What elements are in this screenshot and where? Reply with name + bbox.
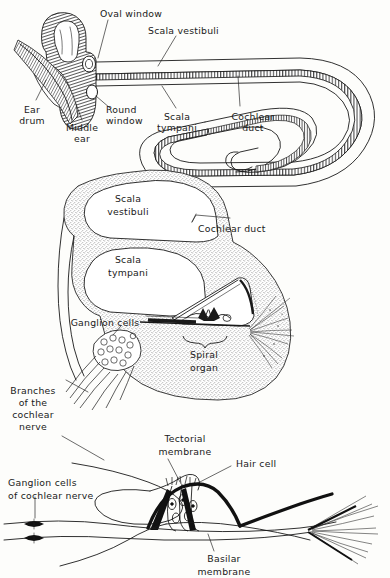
label-scala-tympani-line2: tympani [157, 122, 197, 133]
label-scala-tympani-2-line2: tympani [108, 267, 148, 278]
label-middle-ear-line2: ear [74, 133, 90, 144]
label-tectorial-line2: membrane [159, 446, 212, 457]
label-spiral-organ-line1: Spiral [190, 349, 218, 360]
label-scala-tympani-2-line1: Scala [115, 254, 141, 265]
label-round-window-line1: Round [106, 104, 137, 115]
label-ear-drum-line2: drum [19, 115, 45, 126]
label-round-window-line2: window [106, 115, 143, 126]
label-ear-drum-line1: Ear [24, 104, 40, 115]
label-scala-vestibuli-2-line2: vestibuli [107, 206, 149, 217]
label-cochlear-duct-line2: duct [242, 122, 264, 133]
label-ganglion-cells-2: Ganglion cells [71, 317, 140, 328]
label-spiral-organ-line2: organ [190, 362, 218, 373]
label-scala-tympani-line1: Scala [164, 111, 190, 122]
round-window [87, 85, 98, 99]
label-scala-vestibuli: Scala vestibuli [148, 25, 219, 36]
label-hair-cell: Hair cell [236, 458, 276, 469]
label-ganglion-3-line1: Ganglion cells [8, 477, 77, 488]
cochlea-figure: Oval window Scala vestibuli Ear drum Mid… [0, 0, 390, 578]
label-middle-ear-line1: Middle [66, 122, 98, 133]
label-ganglion-3-line2: of cochlear nerve [8, 490, 93, 501]
label-basilar-line1: Basilar [207, 553, 240, 564]
cochlea-diagram-page: Oval window Scala vestibuli Ear drum Mid… [0, 0, 390, 578]
label-branches-line4: nerve [19, 421, 47, 432]
label-cochlear-duct-2: Cochlear duct [198, 223, 266, 234]
label-tectorial-line1: Tectorial [163, 433, 205, 444]
spiral-lamina [148, 320, 196, 322]
label-branches-line3: cochlear [12, 409, 54, 420]
label-basilar-line2: membrane [198, 566, 251, 577]
label-cochlear-duct-line1: Cochlear [231, 111, 274, 122]
label-oval-window: Oval window [100, 8, 162, 19]
label-branches-line2: of the [19, 397, 48, 408]
oval-window [83, 56, 96, 72]
label-branches-line1: Branches [10, 385, 55, 396]
label-scala-vestibuli-2-line1: Scala [115, 193, 141, 204]
